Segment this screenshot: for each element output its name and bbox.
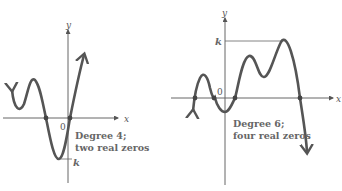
y-axis-label: y [221,8,228,18]
x-axis-label: x [336,94,341,104]
graph-degree-4: y x 0 k Degree 4; two real zeros [3,20,149,183]
y-axis-label: y [65,20,72,30]
zero-point [44,116,49,121]
graph-degree-6: y x 0 k Degree 6; four real zeros [171,8,341,185]
zero-point [68,116,73,121]
caption-line-2: four real zeros [233,130,311,141]
origin-label: 0 [60,122,66,132]
x-axis-label: x [124,114,129,124]
degree-4-curve [12,55,84,159]
caption-line-1: Degree 6; [233,118,284,129]
zero-point [233,96,238,101]
k-label: k [215,36,222,47]
k-label: k [73,157,80,168]
origin-label: 0 [217,87,223,97]
zero-point [193,96,198,101]
zero-point [212,96,217,101]
caption-line-1: Degree 4; [75,130,126,141]
polynomial-graphs-figure: y x 0 k Degree 4; two real zeros y x 0 k… [0,0,342,191]
zero-point [298,96,303,101]
caption-line-2: two real zeros [75,142,149,153]
